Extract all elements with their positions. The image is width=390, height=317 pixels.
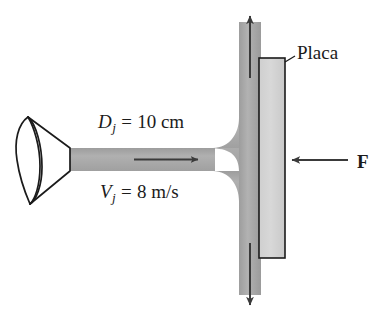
plate-label: Placa bbox=[297, 43, 338, 62]
jet-diameter-symbol: D bbox=[98, 111, 112, 132]
jet-velocity-label: Vj = 8 m/s bbox=[100, 182, 179, 205]
jet-upper-fillet bbox=[213, 118, 239, 148]
force-label: F bbox=[357, 152, 369, 171]
jet-diameter-label: Dj = 10 cm bbox=[98, 112, 184, 135]
jet-lower-fillet bbox=[213, 171, 239, 201]
jet-velocity-symbol: V bbox=[100, 181, 112, 202]
flat-plate bbox=[259, 58, 285, 258]
jet-velocity-value: 8 m/s bbox=[137, 181, 179, 202]
nozzle-cone bbox=[16, 117, 70, 204]
flat-plate-body bbox=[259, 58, 285, 258]
jet-velocity-equals: = bbox=[121, 181, 132, 202]
jet-diameter-value: 10 cm bbox=[137, 111, 184, 132]
plate-label-leader-line bbox=[285, 56, 295, 62]
water-jet-body bbox=[70, 22, 261, 295]
figure-container: Dj = 10 cm Vj = 8 m/s Placa F bbox=[0, 0, 390, 317]
jet-diameter-equals: = bbox=[121, 111, 132, 132]
